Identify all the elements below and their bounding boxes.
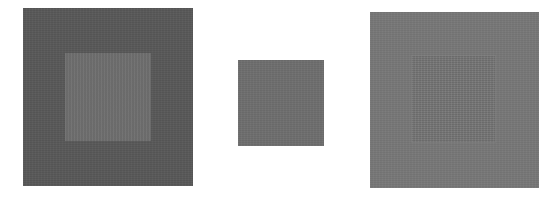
left-inner-gray-square <box>65 53 151 141</box>
right-inner-gray-square <box>411 55 496 143</box>
middle-gray-square <box>238 60 324 146</box>
contrast-illusion-canvas <box>0 0 560 197</box>
left-dark-background-square <box>23 8 193 186</box>
right-gray-background-square <box>370 12 539 188</box>
